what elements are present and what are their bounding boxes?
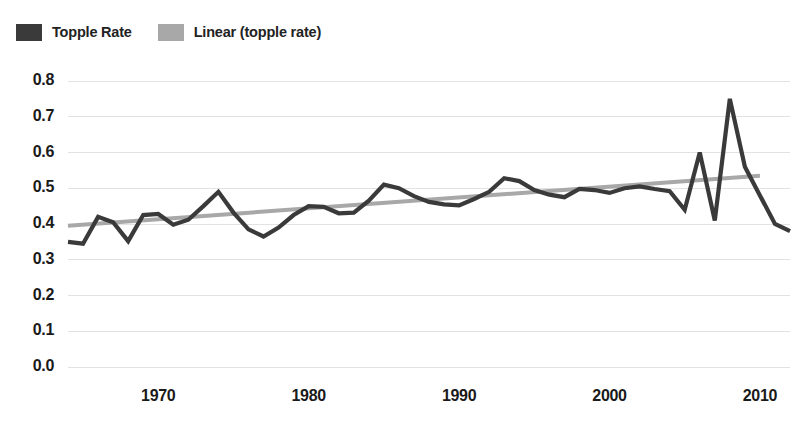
- chart-root: Topple Rate Linear (topple rate) 0.80.70…: [0, 0, 801, 427]
- x-axis-tick-label: 2010: [725, 387, 795, 405]
- linear-trendline: [68, 176, 760, 226]
- y-axis-tick-label: 0.5: [8, 178, 54, 196]
- y-axis-tick-label: 0.2: [8, 286, 54, 304]
- x-axis-tick-label: 1970: [123, 387, 193, 405]
- y-axis-tick-label: 0.4: [8, 214, 54, 232]
- y-axis-tick-label: 0.0: [8, 357, 54, 375]
- y-axis-tick-label: 0.1: [8, 321, 54, 339]
- x-axis-tick-label: 1990: [424, 387, 494, 405]
- plot-area: [0, 0, 801, 427]
- y-axis-tick-label: 0.7: [8, 107, 54, 125]
- x-axis-tick-label: 2000: [575, 387, 645, 405]
- y-axis-tick-label: 0.8: [8, 71, 54, 89]
- topple-rate-line: [68, 99, 790, 244]
- x-axis-tick-label: 1980: [274, 387, 344, 405]
- y-axis-tick-label: 0.6: [8, 143, 54, 161]
- plot-svg: [0, 0, 801, 427]
- y-axis-tick-label: 0.3: [8, 250, 54, 268]
